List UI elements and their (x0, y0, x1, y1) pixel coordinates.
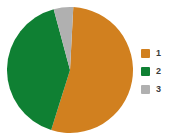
square-swatch-icon (141, 67, 150, 76)
legend-item-2[interactable]: 2 (141, 62, 172, 80)
square-swatch-icon (141, 85, 150, 94)
legend-label: 3 (156, 85, 161, 94)
square-swatch-icon (141, 49, 150, 58)
legend-label: 1 (156, 49, 161, 58)
chart-legend: 1 2 3 (141, 44, 172, 98)
pie-svg (7, 6, 134, 134)
legend-label: 2 (156, 67, 161, 76)
pie-slice-group (7, 7, 133, 133)
legend-item-1[interactable]: 1 (141, 44, 172, 62)
pie-chart-figure: 1 2 3 (0, 0, 172, 139)
pie-plot-area (7, 6, 134, 134)
legend-item-3[interactable]: 3 (141, 80, 172, 98)
